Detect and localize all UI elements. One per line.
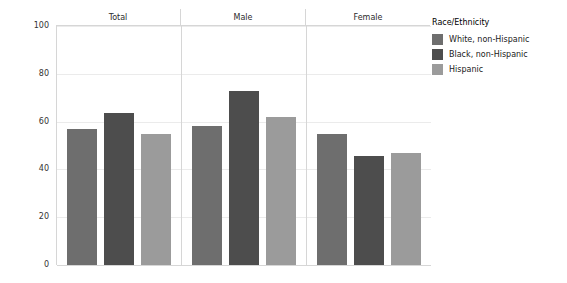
gridline (57, 265, 431, 266)
legend-item-label: Black, non-Hispanic (449, 49, 528, 60)
legend-item[interactable]: White, non-Hispanic (432, 32, 562, 46)
y-axis-tick-label: 0 (22, 261, 54, 269)
legend: Race/Ethnicity White, non-HispanicBlack,… (432, 18, 562, 77)
legend-items: White, non-HispanicBlack, non-HispanicHi… (432, 32, 562, 76)
bar (192, 126, 222, 265)
panel-female (306, 26, 431, 265)
legend-title: Race/Ethnicity (432, 18, 562, 28)
bar (141, 134, 171, 265)
panel-strip-label: Total (109, 13, 128, 22)
legend-item[interactable]: Black, non-Hispanic (432, 47, 562, 61)
legend-item[interactable]: Hispanic (432, 62, 562, 76)
bar-group (57, 26, 181, 265)
legend-swatch-icon (432, 64, 443, 75)
y-axis-tick-labels: 020406080100 (22, 0, 54, 283)
y-axis-tick-label: 80 (22, 70, 54, 78)
panel-strip-label: Female (354, 13, 383, 22)
y-axis-tick-label: 20 (22, 213, 54, 221)
legend-item-label: White, non-Hispanic (449, 34, 529, 45)
bar (104, 113, 134, 265)
bar-chart-figure: Percent 020406080100 TotalMaleFemale Rac… (0, 0, 567, 283)
bar (354, 156, 384, 265)
panel-strip-row: TotalMaleFemale (56, 9, 430, 26)
legend-swatch-icon (432, 34, 443, 45)
panel-strip-female: Female (305, 9, 430, 26)
bar-group (182, 26, 306, 265)
bar (317, 134, 347, 265)
legend-item-label: Hispanic (449, 64, 483, 75)
y-axis-tick-label: 60 (22, 118, 54, 126)
panel-strip-male: Male (180, 9, 305, 26)
bar (266, 117, 296, 265)
bar (391, 153, 421, 265)
panel-male (181, 26, 306, 265)
bar-group (307, 26, 431, 265)
panel-strip-label: Male (234, 13, 253, 22)
bar (67, 129, 97, 265)
bar (229, 91, 259, 265)
y-axis-tick-label: 100 (22, 22, 54, 30)
panel-total (57, 26, 181, 265)
y-axis-tick-label: 40 (22, 165, 54, 173)
panel-container (57, 26, 431, 265)
plot-area (56, 26, 431, 265)
panel-strip-total: Total (56, 9, 180, 26)
legend-swatch-icon (432, 49, 443, 60)
